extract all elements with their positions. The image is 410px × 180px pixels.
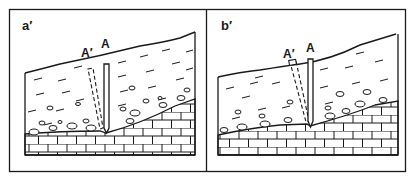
stake-displaced-label: A′	[81, 46, 93, 60]
stake-displaced-label: A′	[283, 47, 295, 61]
stake-displaced	[88, 68, 103, 129]
panel-a-label: a′	[22, 18, 32, 33]
stake-original	[308, 59, 313, 127]
sediment-surface	[25, 32, 195, 73]
panel-b-label: b′	[221, 18, 232, 33]
panel-b: b′	[218, 18, 398, 155]
stake-displaced	[290, 61, 309, 122]
two-panel-geology-diagram: a′	[0, 0, 410, 180]
stake-original-label: A	[101, 37, 110, 51]
stake-original-label: A	[306, 41, 315, 55]
panel-a: a′	[22, 18, 195, 155]
stake-original	[104, 64, 109, 133]
